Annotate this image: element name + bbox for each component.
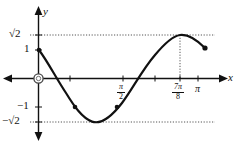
curve-point-end (202, 45, 207, 50)
x-label-pi-over-2-denominator: 2 (117, 93, 125, 101)
x-axis-label: x (228, 72, 233, 83)
x-label-pi: π (195, 84, 200, 94)
origin-open-circle (34, 74, 43, 83)
curve-point-right-neg-one (115, 105, 120, 110)
x-axis-arrow-right (219, 75, 228, 83)
graph-figure: y x √2 1 −1 −√2 π 2 7π 8 π (0, 0, 240, 142)
curve-point-start (37, 48, 42, 53)
x-label-7pi-over-8: 7π 8 (172, 83, 184, 101)
x-label-7pi-over-8-denominator: 8 (172, 93, 184, 101)
x-axis-arrow-left (3, 75, 12, 83)
y-axis-arrow-top (35, 6, 43, 15)
x-label-pi-over-2-fraction: π 2 (117, 83, 125, 101)
plot-canvas (0, 0, 240, 142)
x-label-7pi-over-8-fraction: 7π 8 (172, 83, 184, 101)
y-label-neg-sqrt2: −√2 (2, 115, 20, 126)
y-label-neg-one: −1 (17, 100, 29, 111)
y-label-one: 1 (24, 43, 30, 54)
x-label-pi-over-2: π 2 (117, 83, 125, 101)
y-axis-arrow-bottom (35, 132, 43, 141)
y-axis-label: y (43, 6, 48, 17)
curve-point-left-neg-one (73, 105, 78, 110)
y-label-sqrt2: √2 (9, 28, 21, 39)
